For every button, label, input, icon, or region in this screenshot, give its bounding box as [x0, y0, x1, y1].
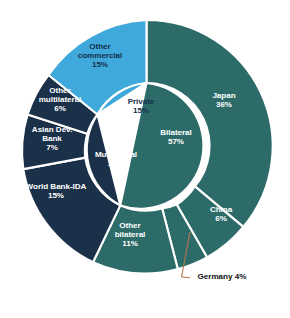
donut-svg: [0, 0, 290, 318]
slice-label-germany: Germany 4%: [192, 272, 252, 281]
nested-donut-chart: Other commercial 15% Other multilateral …: [0, 0, 290, 318]
